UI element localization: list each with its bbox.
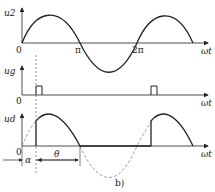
figure-caption: b) xyxy=(115,178,124,188)
ug-axis-label: ug xyxy=(4,66,16,76)
ud-x-axis-label: ωt xyxy=(201,149,212,159)
u2-axis-label: u2 xyxy=(4,8,16,18)
u2-x-axis-label: ωt xyxy=(201,46,212,56)
2pi-tick-label: 2π xyxy=(132,45,144,55)
thyristor-waveform-diagram: u2 0 π 2π ωt ug 0 ωt ud 0 ωt α θ b) xyxy=(0,0,215,192)
u2-origin-label: 0 xyxy=(16,45,22,55)
ud-axis-label: ud xyxy=(4,114,16,124)
panel-u2 xyxy=(22,8,208,72)
theta-label: θ xyxy=(54,149,60,159)
panel-ud xyxy=(3,55,208,178)
ud-origin-label: 0 xyxy=(16,147,22,157)
alpha-label: α xyxy=(25,155,31,165)
ug-x-axis-label: ωt xyxy=(201,98,212,108)
ug-origin-label: 0 xyxy=(16,96,22,106)
pi-tick-label: π xyxy=(75,45,81,55)
